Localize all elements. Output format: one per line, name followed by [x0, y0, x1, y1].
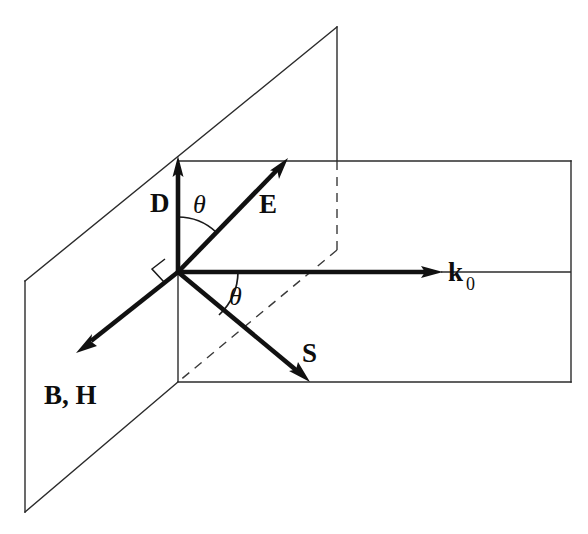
vertical-plane-top-edge: [25, 27, 337, 281]
label-theta-lower: θ: [229, 282, 242, 311]
label-k0: k 0: [448, 257, 475, 294]
vector-BH: [76, 272, 178, 353]
vector-E-shaft: [178, 170, 277, 272]
right-angle-icon: [152, 259, 165, 282]
label-k0-symbol: k: [448, 257, 463, 287]
vector-k0: [178, 266, 443, 278]
label-D: D: [150, 188, 170, 218]
label-E: E: [259, 189, 277, 219]
diagram-canvas: D θ E k 0 θ S B, H: [0, 0, 588, 534]
label-theta-upper: θ: [193, 190, 206, 219]
label-S: S: [302, 338, 317, 368]
vector-BH-shaft: [91, 272, 178, 341]
label-k0-subscript: 0: [466, 274, 475, 294]
vector-diagram-figure: D θ E k 0 θ S B, H: [0, 0, 588, 534]
vector-D: [173, 156, 184, 272]
label-BH: B, H: [44, 380, 97, 410]
theta-upper-arc: [178, 217, 216, 232]
